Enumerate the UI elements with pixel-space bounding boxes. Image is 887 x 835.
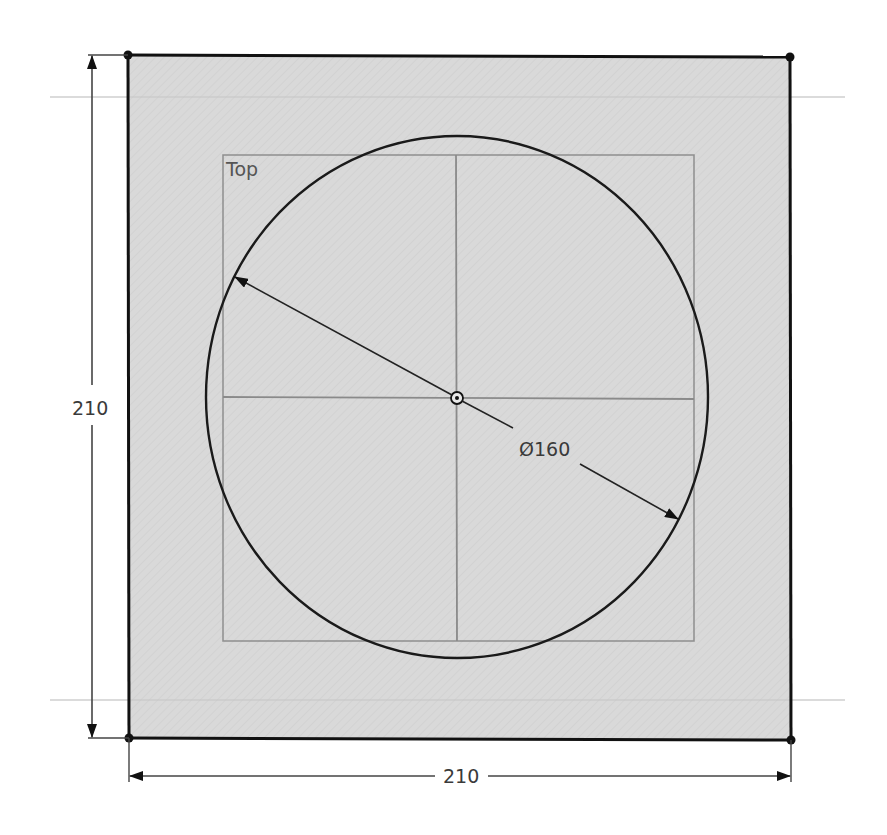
diameter-label[interactable]: Ø160: [519, 438, 570, 460]
center-point-icon[interactable]: [451, 392, 463, 404]
view-label: Top: [225, 158, 258, 180]
vertical-dimension-label[interactable]: 210: [72, 397, 108, 419]
horizontal-dimension[interactable]: 210: [129, 738, 791, 787]
horizontal-dimension-label[interactable]: 210: [443, 765, 479, 787]
vertical-dimension[interactable]: 210: [72, 55, 129, 738]
sketch-canvas[interactable]: Top Ø160 210 210: [0, 0, 887, 835]
vertex-point-icon[interactable]: [786, 53, 795, 62]
